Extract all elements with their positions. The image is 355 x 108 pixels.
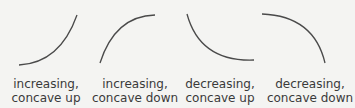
label-line: decreasing, [175,77,265,91]
curve-decreasing-concave-up [187,14,254,60]
label-line: increasing, [1,77,91,91]
curve-increasing-concave-up [19,15,77,65]
label-line: concave down [265,91,355,105]
label-line: concave down [90,91,180,105]
label-increasing-concave-up: increasing, concave up [1,77,91,105]
curve-decreasing-concave-down [262,14,325,63]
label-line: concave up [1,91,91,105]
label-decreasing-concave-down: decreasing, concave down [265,77,355,105]
curve-increasing-concave-down [100,15,155,63]
label-line: concave up [175,91,265,105]
label-decreasing-concave-up: decreasing, concave up [175,77,265,105]
label-line: increasing, [90,77,180,91]
label-line: decreasing, [265,77,355,91]
label-increasing-concave-down: increasing, concave down [90,77,180,105]
